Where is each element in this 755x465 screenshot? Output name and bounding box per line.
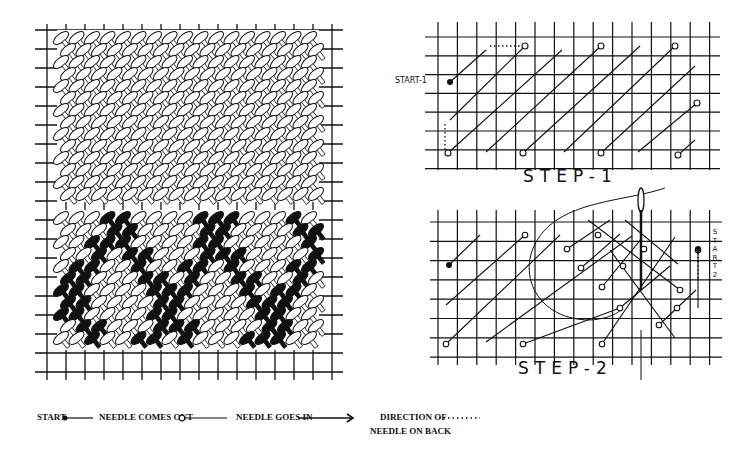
- step2-start-label: S T A R T 2: [711, 228, 719, 279]
- legend-direction-label-2: NEEDLE ON BACK: [370, 426, 451, 436]
- legend: START NEEDLE COMES OUT NEEDLE GOES IN DI…: [0, 412, 755, 452]
- step1-diagram: START-1 STEP-1: [380, 0, 755, 190]
- step2-diagram: S T A R T 2 STEP-2: [380, 180, 755, 385]
- filled-dot-line-icon: [62, 413, 94, 423]
- open-circle-line-icon: [178, 413, 228, 423]
- step2-caption: STEP-2: [518, 358, 613, 378]
- step1-start-label: START-1: [395, 76, 427, 85]
- legend-direction-label-1: DIRECTION OF: [380, 412, 447, 422]
- step1-grid-graphic: [380, 0, 755, 190]
- step2-grid-graphic: [380, 180, 755, 385]
- dotted-line-icon: [438, 413, 483, 423]
- arrow-line-icon: [298, 412, 356, 424]
- stitch-sample-panel: [35, 22, 345, 382]
- basketweave-sample-graphic: [35, 22, 345, 382]
